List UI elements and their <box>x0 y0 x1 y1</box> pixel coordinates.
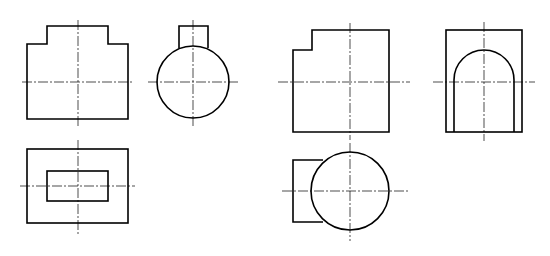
part-a-front-view <box>22 20 134 126</box>
front-view-outline <box>27 26 128 119</box>
part-a-side-view <box>148 20 240 126</box>
part-b-front-view <box>278 23 410 140</box>
projection-drawing <box>0 0 550 256</box>
part-a-top-view <box>20 140 135 234</box>
front-view-outline <box>293 30 389 132</box>
part-b-top-view <box>282 143 410 241</box>
part-b-side-view <box>433 22 535 141</box>
boss-outline <box>179 26 208 48</box>
